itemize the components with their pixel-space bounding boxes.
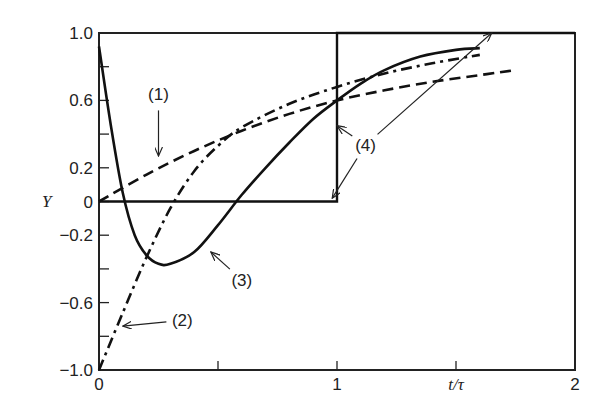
annotation-label: (2): [172, 311, 193, 330]
annotation-arrow: [211, 252, 230, 269]
y-tick-label: −0.2: [59, 226, 93, 245]
series-4: [99, 33, 575, 202]
x-tick-label: 2: [570, 375, 579, 394]
series-3: [99, 46, 480, 265]
annotation-arrow: [378, 33, 492, 134]
data-series: [99, 33, 575, 370]
x-axis-label: t/τ: [448, 375, 464, 394]
y-tick-label: −0.6: [59, 294, 93, 313]
axis-tick-labels: −1.0−0.6−0.200.20.61.001t/τ2: [59, 24, 579, 394]
x-tick-label: 1: [332, 375, 341, 394]
y-tick-label: 0: [84, 193, 93, 212]
annotation-arrow: [123, 322, 167, 326]
y-tick-label: −1.0: [59, 361, 93, 380]
y-tick-label: 0.2: [69, 159, 93, 178]
chart: −1.0−0.6−0.200.20.61.001t/τ2 (1)(2)(3)(4…: [0, 0, 609, 417]
annotation-label: (3): [231, 271, 252, 290]
annotation-label: (4): [355, 136, 376, 155]
x-tick-label: 0: [94, 375, 103, 394]
y-axis-label: Y: [42, 192, 53, 211]
y-tick-label: 1.0: [69, 24, 93, 43]
curve-annotations: (1)(2)(3)(4): [123, 33, 492, 330]
annotation-arrow: [337, 126, 352, 136]
annotation-label: (1): [148, 85, 169, 104]
y-tick-label: 0.6: [69, 91, 93, 110]
